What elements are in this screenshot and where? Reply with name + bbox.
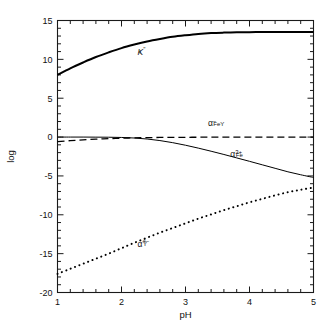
y-tick-label: -20	[39, 288, 52, 298]
plot-canvas: 12345151050-5-10-15-20pHlogK′′fα−FeYα3+F…	[0, 0, 335, 330]
x-tick-label: 4	[247, 297, 252, 307]
y-tick-label: 15	[42, 16, 52, 26]
y-tick-label: 10	[42, 55, 52, 65]
x-axis-title: pH	[179, 309, 191, 320]
y-axis-title: log	[5, 150, 16, 163]
series-line-Kf''	[58, 32, 314, 75]
series-label-alpha_Y4-: α4−Y	[138, 238, 150, 248]
x-tick-label: 1	[55, 297, 60, 307]
series-line-alpha_Y4-	[58, 188, 314, 274]
x-tick-label: 5	[311, 297, 316, 307]
y-tick-label: -10	[39, 210, 52, 220]
series-label-alpha_FeY-: α−FeY	[208, 118, 224, 128]
y-tick-label: -15	[39, 249, 52, 259]
series-line-alpha_FeY-	[58, 137, 314, 142]
y-tick-label: 0	[47, 132, 52, 142]
series-line-alpha_Fe3+	[58, 137, 314, 177]
y-tick-label: 5	[47, 94, 52, 104]
chart-figure: 12345151050-5-10-15-20pHlogK′′fα−FeYα3+F…	[0, 0, 335, 330]
series-label-Kf'': K′′f	[138, 46, 147, 56]
x-tick-label: 3	[183, 297, 188, 307]
series-label-alpha_Fe3+: α3+Fe	[230, 149, 243, 159]
x-tick-label: 2	[119, 297, 124, 307]
y-tick-label: -5	[44, 171, 52, 181]
plot-frame	[58, 21, 314, 293]
